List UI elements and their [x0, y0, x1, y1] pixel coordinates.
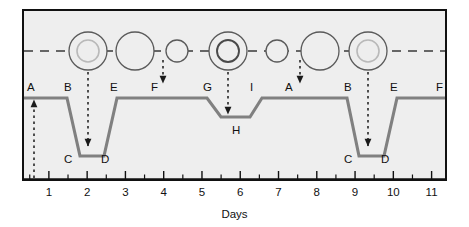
curve-label-f-5: F [151, 82, 158, 94]
curve-label-a-0: A [27, 82, 35, 94]
x-tick-label-8: 8 [314, 186, 320, 198]
figure-container: ABCDEFGHIABCDEF 1234567891011 Days [0, 0, 469, 227]
star-pair-6 [301, 32, 339, 70]
x-tick-label-5: 5 [199, 186, 205, 198]
x-tick-label-2: 2 [84, 186, 90, 198]
curve-label-c-2: C [64, 154, 72, 166]
x-tick-label-6: 6 [237, 186, 243, 198]
curve-label-c-11: C [344, 154, 352, 166]
x-tick-label-11: 11 [426, 186, 438, 198]
curve-label-b-1: B [64, 82, 72, 94]
x-tick-label-9: 9 [352, 186, 358, 198]
curve-label-d-12: D [381, 154, 389, 166]
star-pair-2 [116, 32, 154, 70]
x-axis-title: Days [0, 208, 469, 220]
curve-label-d-3: D [101, 154, 109, 166]
x-tick-label-10: 10 [387, 186, 400, 198]
curve-label-f-14: F [436, 82, 443, 94]
star-pair-4 [209, 32, 247, 70]
star-pair-7 [349, 32, 387, 70]
curve-label-e-13: E [390, 82, 398, 94]
curve-label-e-4: E [110, 82, 118, 94]
star-pair-1 [69, 32, 107, 70]
x-tick-label-1: 1 [46, 186, 52, 198]
curve-label-h-7: H [232, 125, 240, 137]
x-axis-ticks-group [23, 171, 446, 179]
curve-label-b-10: B [344, 82, 352, 94]
curve-label-i-8: I [250, 82, 253, 94]
star-systems-group [69, 32, 387, 70]
x-tick-label-4: 4 [160, 186, 166, 198]
star-pair-5 [266, 40, 288, 62]
curve-label-a-9: A [285, 82, 293, 94]
star-pair-3 [166, 40, 188, 62]
x-tick-label-3: 3 [122, 186, 128, 198]
star-companion-front-4 [217, 40, 239, 62]
x-tick-label-7: 7 [275, 186, 281, 198]
annotation-arrows-group [34, 60, 368, 178]
curve-label-g-6: G [203, 82, 212, 94]
